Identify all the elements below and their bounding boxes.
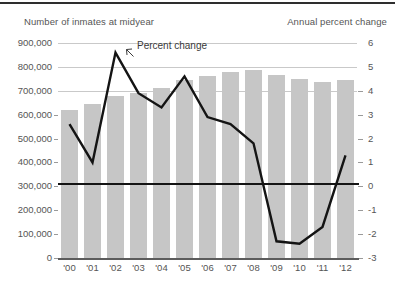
chart-figure: Number of inmates at midyear Annual perc… — [0, 0, 395, 286]
percent-change-annotation: Percent change — [137, 40, 207, 51]
